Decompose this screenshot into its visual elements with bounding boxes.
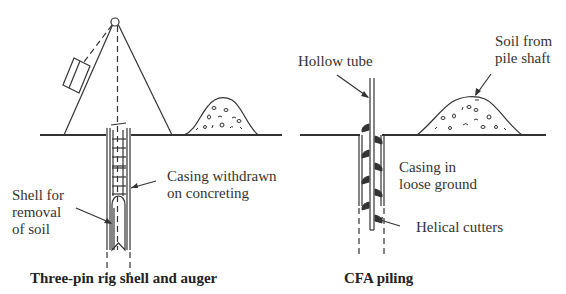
pulley-icon <box>111 18 119 26</box>
casing-loose-label-2: loose ground <box>399 176 477 192</box>
casing-withdrawn-label-2: on concreting <box>167 185 250 201</box>
shell-label-2: removal <box>12 204 61 220</box>
three-pin-rig-figure: Casing withdrawn on concreting Shell for… <box>12 18 282 286</box>
shell-label-3: of soil <box>12 221 50 237</box>
casing-withdrawn-label-1: Casing withdrawn <box>167 168 277 184</box>
casing-left <box>107 123 130 275</box>
left-caption: Three-pin rig shell and auger <box>30 270 218 286</box>
soil-label-1: Soil from <box>495 33 552 49</box>
helical-cutters-label: Helical cutters <box>416 219 503 235</box>
hollow-tube-label: Hollow tube <box>298 53 373 69</box>
piling-methods-diagram: Casing withdrawn on concreting Shell for… <box>0 0 566 294</box>
cfa-piling-figure: Hollow tube Soil from pile shaft Casing … <box>298 33 552 286</box>
right-caption: CFA piling <box>344 270 414 286</box>
soil-mound-left <box>184 98 258 135</box>
casing-loose-label-1: Casing in <box>399 159 457 175</box>
shell-label-1: Shell for <box>12 187 64 203</box>
winch-box <box>63 58 90 93</box>
hollow-tube <box>370 78 374 230</box>
soil-label-2: pile shaft <box>495 50 551 66</box>
helical-cutters <box>362 124 382 223</box>
soil-mound-right <box>417 97 522 135</box>
